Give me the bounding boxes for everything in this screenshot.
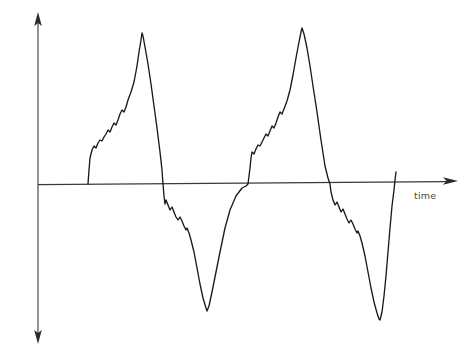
waveform-plot-canvas [0,0,470,355]
x-axis-label: time [414,190,436,201]
x-axis-arrow-right-icon [443,177,458,185]
waveform-trace [88,28,396,320]
waveform-figure: amplitude time [0,0,470,355]
x-axis-line [38,182,447,185]
y-axis-label: amplitude [0,175,51,189]
